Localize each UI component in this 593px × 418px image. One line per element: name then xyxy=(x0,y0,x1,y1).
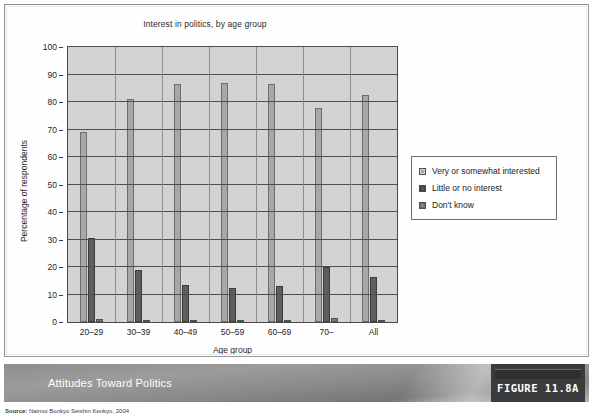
y-axis-tick xyxy=(59,240,63,241)
y-axis-tick-label: 0 xyxy=(52,317,57,327)
category-separator xyxy=(350,47,351,322)
y-axis-tick-label: 50 xyxy=(48,180,57,190)
y-axis: Percentage of respondents 01020304050607… xyxy=(5,46,63,323)
x-axis-tick-label: 60–69 xyxy=(268,327,292,337)
bar xyxy=(237,320,244,322)
figure-tag-accent-bar xyxy=(495,369,581,379)
gridline xyxy=(68,266,397,267)
bar xyxy=(378,320,385,322)
y-axis-tick xyxy=(59,295,63,296)
legend-label: Little or no interest xyxy=(432,183,502,193)
x-axis-title: Age group xyxy=(67,345,398,355)
gridline xyxy=(68,46,397,47)
gridline xyxy=(68,101,397,102)
y-axis-tick-label: 30 xyxy=(48,235,57,245)
category-separator xyxy=(256,47,257,322)
y-axis-tick-label: 10 xyxy=(48,290,57,300)
source-text: Naimoi Bonkyo Seishin Kenkyo, 2004 xyxy=(29,408,129,414)
figure-page: Interest in politics, by age group Perce… xyxy=(0,0,593,418)
y-axis-tick-label: 60 xyxy=(48,152,57,162)
y-axis-tick xyxy=(59,130,63,131)
x-axis-tick-label: All xyxy=(369,327,378,337)
bar xyxy=(370,277,377,322)
figure-frame: Interest in politics, by age group Perce… xyxy=(4,4,589,357)
category-separator xyxy=(209,47,210,322)
bar xyxy=(331,318,338,322)
legend-item: Little or no interest xyxy=(419,183,549,193)
bar xyxy=(182,285,189,322)
gridline xyxy=(68,294,397,295)
bar xyxy=(323,267,330,322)
gridline xyxy=(68,211,397,212)
bar xyxy=(190,320,197,322)
y-axis-tick xyxy=(59,47,63,48)
caption-band: Attitudes Toward Politics FIGURE 11.8A xyxy=(4,364,589,402)
y-axis-title: Percentage of respondents xyxy=(19,76,29,306)
y-axis-tick xyxy=(59,75,63,76)
y-axis-tick-label: 90 xyxy=(48,70,57,80)
bar xyxy=(135,270,142,322)
plot-area xyxy=(67,46,398,323)
y-axis-tick-label: 100 xyxy=(43,42,57,52)
legend-swatch-little-or-no-interest xyxy=(419,185,426,192)
bar xyxy=(268,84,275,322)
bar xyxy=(143,320,150,322)
bar xyxy=(276,286,283,322)
category-separator xyxy=(115,47,116,322)
bar xyxy=(284,320,291,322)
figure-tag-label: FIGURE 11.8A xyxy=(493,382,583,394)
legend-item: Very or somewhat interested xyxy=(419,166,549,176)
chart-title: Interest in politics, by age group xyxy=(5,19,405,29)
bar xyxy=(88,238,95,322)
bar xyxy=(315,108,322,323)
legend-label: Don't know xyxy=(432,200,474,210)
x-axis-tick-labels: 20–2930–3940–4950–5960–6970–All xyxy=(67,327,398,341)
y-axis-tick xyxy=(59,185,63,186)
y-axis-tick xyxy=(59,212,63,213)
y-axis-tick xyxy=(59,157,63,158)
x-axis-tick-label: 40–49 xyxy=(174,327,198,337)
source-note: Source: Naimoi Bonkyo Seishin Kenkyo, 20… xyxy=(5,406,589,417)
y-axis-tick xyxy=(59,102,63,103)
bar xyxy=(96,319,103,322)
gridline xyxy=(68,129,397,130)
chart-legend: Very or somewhat interested Little or no… xyxy=(411,156,557,220)
legend-swatch-dont-know xyxy=(419,202,426,209)
bar xyxy=(174,84,181,322)
category-separator xyxy=(162,47,163,322)
y-axis-tick-label: 80 xyxy=(48,97,57,107)
y-axis-tick-label: 70 xyxy=(48,125,57,135)
x-axis-tick-label: 50–59 xyxy=(221,327,245,337)
category-separator xyxy=(303,47,304,322)
legend-swatch-very-or-somewhat-interested xyxy=(419,168,426,175)
gridline xyxy=(68,156,397,157)
y-axis-tick xyxy=(59,267,63,268)
x-axis-tick-label: 30–39 xyxy=(127,327,151,337)
source-label: Source: xyxy=(5,408,27,414)
bar xyxy=(221,83,228,322)
legend-label: Very or somewhat interested xyxy=(432,166,540,176)
y-axis-tick xyxy=(59,322,63,323)
figure-caption: Attitudes Toward Politics xyxy=(48,377,172,389)
y-axis-tick-label: 20 xyxy=(48,262,57,272)
gridline xyxy=(68,74,397,75)
x-axis-tick-label: 70– xyxy=(319,327,333,337)
x-axis-tick-label: 20–29 xyxy=(80,327,104,337)
legend-item: Don't know xyxy=(419,200,549,210)
gridline xyxy=(68,184,397,185)
bar-group-container xyxy=(68,47,397,322)
gridline xyxy=(68,239,397,240)
y-axis-tick-label: 40 xyxy=(48,207,57,217)
